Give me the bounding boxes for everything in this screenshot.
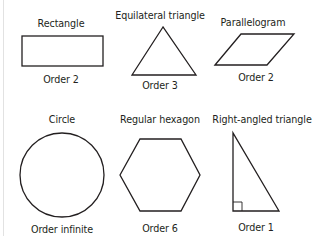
parallelogram-shape	[215, 34, 294, 65]
shape-name-circle: Circle	[49, 114, 75, 126]
shape-order-rectangle: Order 2	[43, 74, 79, 86]
shape-name-equilateral-triangle: Equilateral triangle	[115, 10, 205, 22]
shape-order-right-angled-triangle: Order 1	[238, 222, 274, 234]
right-angled-triangle-shape	[233, 133, 279, 211]
shape-name-regular-hexagon: Regular hexagon	[120, 114, 200, 126]
right-angle-marker-icon	[233, 202, 242, 211]
shape-order-regular-hexagon: Order 6	[142, 223, 178, 235]
shape-name-parallelogram: Parallelogram	[221, 17, 286, 29]
shape-name-rectangle: Rectangle	[38, 18, 85, 30]
regular-hexagon-shape	[120, 139, 200, 211]
shape-order-parallelogram: Order 2	[238, 72, 274, 84]
circle-shape	[20, 133, 104, 217]
rectangle-shape	[22, 36, 103, 66]
equilateral-triangle-shape	[132, 27, 196, 75]
shape-order-circle: Order infinite	[31, 224, 93, 236]
shape-order-equilateral-triangle: Order 3	[142, 80, 178, 92]
shape-name-right-angled-triangle: Right-angled triangle	[212, 114, 311, 126]
